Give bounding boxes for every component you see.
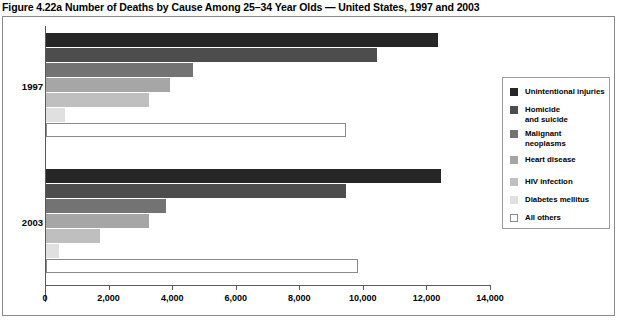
legend-label: HIV infection (525, 177, 573, 187)
legend-item: Heart disease (510, 155, 576, 165)
legend-item: All others (510, 213, 561, 223)
legend-swatch-icon (510, 156, 518, 164)
x-tick-label: 14,000 (476, 293, 504, 303)
legend-item: Diabetes mellitus (510, 195, 589, 205)
x-tick-label: 12,000 (413, 293, 441, 303)
legend: Unintentional injuriesHomicide and suici… (502, 77, 610, 229)
x-tick-mark (172, 286, 173, 290)
bar (46, 123, 346, 137)
bar (46, 244, 59, 258)
x-tick-mark (490, 286, 491, 290)
x-tick-label: 2,000 (97, 293, 120, 303)
figure-container: Figure 4.22a Number of Deaths by Cause A… (0, 0, 619, 321)
bar (46, 199, 166, 213)
x-tick-label: 0 (42, 293, 47, 303)
x-axis-line (45, 285, 491, 286)
x-tick-label: 10,000 (349, 293, 377, 303)
x-tick-mark (45, 286, 46, 290)
group-label-2003: 2003 (11, 217, 43, 228)
figure-title: Figure 4.22a Number of Deaths by Cause A… (2, 0, 617, 15)
legend-swatch-icon (510, 88, 518, 96)
bar (46, 78, 170, 92)
bar (46, 169, 441, 183)
legend-label: Unintentional injuries (525, 87, 605, 97)
group-label-1997: 1997 (11, 81, 43, 92)
legend-label: Homicide and suicide (525, 105, 568, 124)
legend-item: Homicide and suicide (510, 105, 568, 124)
bar (46, 259, 358, 273)
x-tick-label: 6,000 (224, 293, 247, 303)
legend-swatch-icon (510, 214, 518, 222)
legend-label: Malignant neoplasms (525, 129, 566, 148)
bar (46, 229, 100, 243)
x-tick-label: 4,000 (161, 293, 184, 303)
bar (46, 184, 346, 198)
bar (46, 63, 193, 77)
legend-swatch-icon (510, 130, 518, 138)
x-tick-label: 8,000 (288, 293, 311, 303)
legend-item: HIV infection (510, 177, 573, 187)
bar (46, 214, 149, 228)
legend-label: Heart disease (525, 155, 576, 165)
legend-swatch-icon (510, 196, 518, 204)
legend-label: Diabetes mellitus (525, 195, 589, 205)
legend-label: All others (525, 213, 561, 223)
legend-item: Unintentional injuries (510, 87, 605, 97)
bar (46, 48, 377, 62)
x-tick-mark (299, 286, 300, 290)
chart-frame: 02,0004,0006,0008,00010,00012,00014,000 … (2, 16, 615, 316)
bar (46, 108, 65, 122)
x-tick-mark (236, 286, 237, 290)
legend-swatch-icon (510, 106, 518, 114)
legend-item: Malignant neoplasms (510, 129, 566, 148)
x-tick-mark (109, 286, 110, 290)
legend-swatch-icon (510, 178, 518, 186)
bar (46, 93, 149, 107)
x-tick-mark (363, 286, 364, 290)
bar (46, 33, 438, 47)
x-tick-mark (426, 286, 427, 290)
